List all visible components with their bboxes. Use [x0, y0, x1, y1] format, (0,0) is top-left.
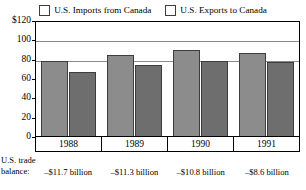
y-axis-tick-label: $120	[12, 16, 31, 26]
bar-imports-1991[interactable]	[239, 53, 266, 136]
bar-imports-1990[interactable]	[173, 50, 200, 136]
bar-series-container	[36, 22, 299, 136]
trade-balance-value-1989: –$11.3 billion	[101, 166, 167, 178]
legend-swatch-imports	[39, 5, 50, 16]
y-axis: $120100806040200	[0, 21, 35, 137]
y-axis-tick-label: 80	[22, 55, 32, 65]
trade-balance-label-line1: U.S. trade	[1, 155, 36, 165]
trade-balance-value-1991: –$8.6 billion	[234, 166, 300, 178]
bar-exports-1988[interactable]	[69, 72, 96, 136]
legend-swatch-exports	[165, 5, 176, 16]
bar-exports-1991[interactable]	[267, 62, 294, 136]
trade-balance-label-line2: balance:	[1, 166, 30, 176]
trade-balance-value-1988: –$11.7 billion	[35, 166, 101, 178]
trade-balance-value-1990: –$10.8 billion	[168, 166, 234, 178]
bar-exports-1989[interactable]	[135, 65, 162, 136]
bar-group-1991	[233, 22, 299, 136]
y-axis-tick-label: 60	[22, 74, 32, 84]
legend-entry-imports: U.S. Imports from Canada	[39, 5, 151, 16]
y-axis-tick-label: 40	[22, 94, 32, 104]
x-axis-label-1991: 1991	[234, 137, 299, 151]
y-axis-tick-label: 20	[22, 113, 32, 123]
bar-exports-1990[interactable]	[201, 61, 228, 136]
bar-group-1990	[168, 22, 234, 136]
legend-label-imports: U.S. Imports from Canada	[54, 5, 151, 16]
trade-balance-footnote: U.S. trade balance: –$11.7 billion–$11.3…	[0, 155, 306, 185]
x-axis-label-1990: 1990	[168, 137, 234, 151]
bar-imports-1988[interactable]	[41, 61, 68, 136]
bar-group-1988	[36, 22, 102, 136]
bar-imports-1989[interactable]	[107, 55, 134, 136]
x-axis-label-1989: 1989	[102, 137, 168, 151]
legend-label-exports: U.S. Exports to Canada	[180, 5, 267, 16]
chart-legend: U.S. Imports from Canada U.S. Exports to…	[0, 2, 306, 18]
trade-balance-values-row: –$11.7 billion–$11.3 billion–$10.8 billi…	[35, 166, 300, 178]
plot-area	[35, 21, 300, 137]
x-axis-category-row: 1988198919901991	[35, 137, 300, 152]
bar-group-1989	[102, 22, 168, 136]
y-axis-tick-label: 0	[26, 132, 31, 142]
legend-entry-exports: U.S. Exports to Canada	[165, 5, 267, 16]
y-axis-tick-label: 100	[17, 36, 31, 46]
trade-balance-label: U.S. trade balance:	[1, 155, 36, 176]
x-axis-label-1988: 1988	[36, 137, 102, 151]
